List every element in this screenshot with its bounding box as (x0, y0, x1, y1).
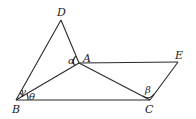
geometry-diagram: D A E B C α β γ θ (0, 0, 196, 119)
arc-theta (27, 94, 28, 100)
label-d: D (56, 6, 66, 19)
label-theta: θ (29, 91, 35, 102)
segment-ae (79, 62, 178, 63)
segments (16, 20, 178, 100)
label-gamma: γ (20, 86, 26, 97)
segment-ac (79, 63, 150, 100)
label-b: B (11, 103, 20, 116)
label-beta: β (144, 84, 151, 95)
label-c: C (145, 103, 154, 116)
label-alpha: α (68, 55, 75, 66)
label-e: E (174, 49, 183, 62)
label-a: A (82, 52, 91, 65)
